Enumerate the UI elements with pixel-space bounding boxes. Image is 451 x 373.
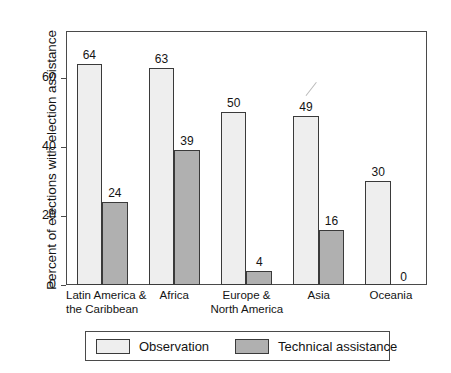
bar-group: 6339 <box>138 31 210 285</box>
bar-technical-assistance[interactable]: 24 <box>102 202 128 285</box>
legend-item-observation[interactable]: Observation <box>96 339 209 354</box>
bar-observation[interactable]: 49 <box>293 116 319 285</box>
bar-value-label: 39 <box>180 134 193 148</box>
bar-group: 4916 <box>283 31 355 285</box>
x-axis-label-line: Europe & <box>210 289 282 303</box>
x-axis-label: Europe &North America <box>210 289 282 316</box>
bar-value-label: 63 <box>155 52 168 66</box>
y-tick-label-40: 40 <box>42 139 56 153</box>
bar-value-label: 50 <box>227 96 240 110</box>
bar-value-label: 64 <box>83 48 96 62</box>
bar-value-label: 49 <box>299 100 312 114</box>
x-axis-label-line: the Caribbean <box>66 303 138 317</box>
bar-value-label: 16 <box>325 214 338 228</box>
bar-value-label: 4 <box>256 255 263 269</box>
bar-observation[interactable]: 50 <box>221 112 247 285</box>
bar-observation[interactable]: 64 <box>77 64 103 285</box>
y-axis-title: Percent of elections with election assis… <box>34 15 68 305</box>
legend-swatch-observation <box>96 339 130 354</box>
x-axis-label: Africa <box>138 289 210 303</box>
x-axis-label-line: Africa <box>138 289 210 303</box>
legend-label-technical-assistance: Technical assistance <box>278 339 397 354</box>
bar-value-label: 24 <box>108 186 121 200</box>
bar-technical-assistance[interactable]: 39 <box>174 150 200 285</box>
x-axis-label: Asia <box>283 289 355 303</box>
x-axis-label: Oceania <box>355 289 427 303</box>
bar-technical-assistance[interactable]: 16 <box>319 230 345 285</box>
x-axis-label-line: Oceania <box>355 289 427 303</box>
bar-technical-assistance[interactable]: 4 <box>246 271 272 285</box>
bars-layer: 642463395044916300 <box>66 31 427 285</box>
x-axis-label: Latin America &the Caribbean <box>66 289 138 316</box>
y-tick-mark-0 <box>61 285 66 286</box>
y-tick-label-0: 0 <box>49 277 56 291</box>
bar-group: 6424 <box>66 31 138 285</box>
bar-group: 504 <box>210 31 282 285</box>
legend-item-technical-assistance[interactable]: Technical assistance <box>235 339 397 354</box>
x-axis-label-line: Latin America & <box>66 289 138 303</box>
y-tick-label-20: 20 <box>42 208 56 222</box>
bar-value-label: 30 <box>371 165 384 179</box>
legend-swatch-technical-assistance <box>235 339 269 354</box>
x-axis-labels: Latin America &the CaribbeanAfricaEurope… <box>66 289 427 323</box>
legend-label-observation: Observation <box>139 339 209 354</box>
x-axis-label-line: Asia <box>283 289 355 303</box>
bar-value-label: 0 <box>400 270 407 284</box>
bar-group: 300 <box>355 31 427 285</box>
bar-observation[interactable]: 30 <box>365 181 391 285</box>
y-tick-label-60: 60 <box>42 70 56 84</box>
chart-legend: Observation Technical assistance <box>85 331 390 361</box>
bar-observation[interactable]: 63 <box>149 68 175 285</box>
x-axis-label-line: North America <box>210 303 282 317</box>
